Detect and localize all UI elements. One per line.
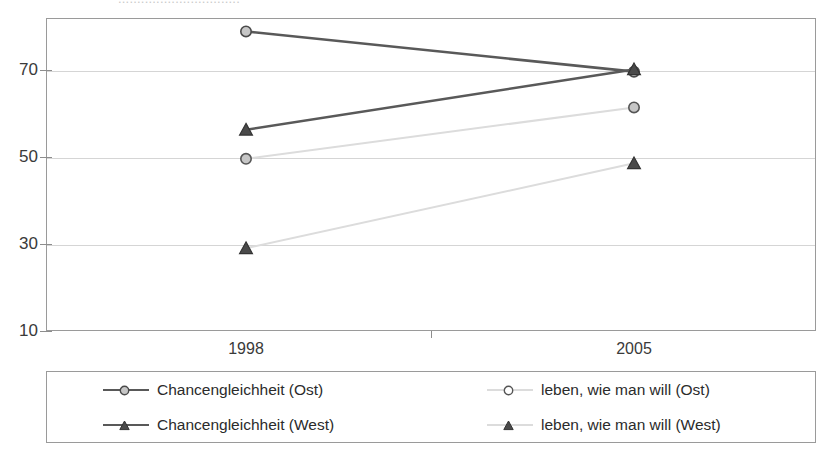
legend-key-triangle-dark-icon — [103, 418, 149, 432]
series-line — [246, 163, 634, 248]
legend-key-circle-dark-icon — [103, 383, 149, 397]
legend-label: leben, wie man will (Ost) — [541, 381, 710, 399]
series-line — [246, 69, 634, 129]
legend-item-chancengleichheit-west[interactable]: Chancengleichheit (West) — [47, 416, 431, 434]
legend-key-triangle-light-icon — [487, 418, 533, 432]
data-point-triangle — [628, 157, 641, 169]
data-point-circle — [241, 154, 251, 164]
data-point-circle — [241, 26, 251, 36]
series-line — [246, 31, 634, 71]
legend-item-chancengleichheit-ost[interactable]: Chancengleichheit (Ost) — [47, 381, 431, 399]
legend-label: Chancengleichheit (West) — [157, 416, 334, 434]
legend-item-leben-ost[interactable]: leben, wie man will (Ost) — [431, 381, 815, 399]
legend-key-circle-light-icon — [487, 383, 533, 397]
legend: Chancengleichheit (Ost) leben, wie man w… — [46, 371, 816, 443]
line-chart: ................................ 70 50 3… — [0, 0, 833, 462]
data-point-circle — [629, 102, 639, 112]
legend-label: leben, wie man will (West) — [541, 416, 721, 434]
legend-label: Chancengleichheit (Ost) — [157, 381, 323, 399]
legend-item-leben-west[interactable]: leben, wie man will (West) — [431, 416, 815, 434]
series-line — [246, 107, 634, 158]
